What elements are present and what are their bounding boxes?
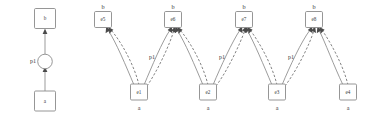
edge-label-p1-3: p1	[288, 53, 294, 60]
left-panel: b p1 a	[30, 9, 56, 112]
node-e7-type-label: b	[242, 3, 245, 10]
edge-e2-to-e6-solid	[177, 30, 203, 85]
node-e6-type-label: b	[171, 3, 174, 10]
edge-e2-to-e7-solid	[213, 30, 240, 85]
edge-e3-to-e7-solid	[247, 30, 272, 85]
place-label-p1: p1	[30, 57, 36, 64]
diagram-canvas: b p1 a	[0, 0, 378, 123]
edge-e4-to-e8-solid	[319, 30, 343, 85]
node-e5-label: e5	[101, 16, 106, 22]
right-panel: b e5 b e6 b e7 b e8 e1 a e2 a e	[95, 3, 357, 111]
node-e4-label: e4	[346, 89, 351, 95]
edge-e1-to-e6-solid	[144, 30, 170, 85]
arrowhead-e4-to-e8-dashed	[320, 27, 325, 34]
edge-e1-to-e5-dashed	[111, 30, 139, 85]
node-e3-type-label: a	[276, 104, 279, 111]
node-e1-type-label: a	[138, 104, 141, 111]
node-b-label: b	[44, 15, 47, 21]
arrowhead-e3-to-e7-dashed	[248, 27, 253, 34]
node-e8-label: e8	[312, 16, 317, 22]
node-e8-type-label: b	[312, 3, 315, 10]
edge-e4-to-e8-dashed	[322, 30, 348, 85]
node-e4-type-label: a	[347, 104, 350, 111]
node-e6-label: e6	[171, 16, 176, 22]
node-e1-label: e1	[137, 89, 142, 95]
edge-label-p1-1: p1	[149, 53, 155, 60]
node-e2-label: e2	[206, 89, 211, 95]
node-e2-type-label: a	[207, 104, 210, 111]
edge-e1-to-e5-solid	[108, 30, 134, 85]
arrowhead-place-to-b	[43, 29, 48, 35]
arrowhead-e2-to-e6-dashed	[178, 27, 183, 34]
edge-e3-to-e8-solid	[282, 30, 310, 85]
edge-label-p1-2: p1	[219, 53, 225, 60]
node-e7-label: e7	[242, 16, 247, 22]
arrowhead-e1-to-e5-dashed	[109, 27, 114, 34]
edge-e2-to-e6-dashed	[180, 30, 208, 85]
place-node-circle[interactable]	[38, 54, 53, 69]
node-e3-label: e3	[275, 89, 280, 95]
node-e5-type-label: b	[101, 3, 104, 10]
edge-e3-to-e7-dashed	[250, 30, 277, 85]
